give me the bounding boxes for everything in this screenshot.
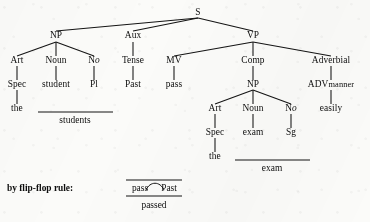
node-number-object-main: N [285,103,292,113]
node-adv-manner-main: ADV [308,79,329,89]
flip-flop-caption: by flip-flop rule: [7,184,73,193]
node-art-subject: Art [11,56,24,65]
node-np-object: NP [247,80,259,89]
branch-s-vp [198,18,253,31]
branch-s-np [56,18,198,31]
node-past: Past [125,80,141,89]
flip-flop-left-word: pass [132,184,148,193]
node-adverbial: Adverbial [312,56,350,65]
node-pass: pass [166,80,183,89]
node-student: student [42,80,70,89]
branch-np1-art [17,42,56,56]
node-mv: MV [166,56,181,65]
node-art-object: Art [209,104,222,113]
node-spec-object: Spec [206,128,225,137]
flip-flop-result: passed [142,201,167,210]
node-noun-subject: Noun [45,56,66,65]
node-sg: Sg [286,128,296,137]
node-number-subject-subscript: o [95,55,100,65]
node-the-object: the [209,152,221,161]
node-the-subject: the [11,104,23,113]
branch-np2-art [215,90,253,104]
branch-np1-no [56,42,94,56]
branch-s-aux [133,18,198,31]
node-number-subject-main: N [88,55,95,65]
node-np-subject: NP [50,31,62,40]
node-noun-object: Noun [242,104,263,113]
node-number-object: No [285,104,297,113]
node-tense: Tense [122,56,144,65]
node-aux: Aux [125,31,141,40]
node-number-object-subscript: o [292,103,297,113]
tree-diagram-page: S NP Aux VP Art Noun No Tense MV Comp Ad… [0,0,370,222]
node-comp: Comp [241,56,264,65]
branch-vp-mv [174,42,253,56]
branch-np2-no [253,90,291,104]
node-vp: VP [247,31,259,40]
node-exam-result: exam [262,164,283,173]
flip-flop-right-word: Past [161,184,177,193]
branch-vp-adverbial [253,42,331,56]
node-adv-manner: ADVmanner [308,80,354,89]
node-s: S [195,8,200,17]
node-spec-subject: Spec [8,80,27,89]
node-adv-manner-subscript: manner [328,80,354,89]
node-students-result: students [59,116,91,125]
node-easily: easily [320,104,342,113]
node-exam-terminal: exam [243,128,264,137]
node-number-subject: No [88,56,100,65]
node-pl: Pl [90,80,98,89]
